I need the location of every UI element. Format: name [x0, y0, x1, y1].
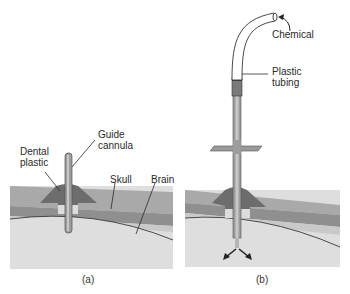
plastic-tubing	[232, 13, 275, 80]
label-skull: Skull	[110, 174, 132, 185]
leader-guide-cannula	[72, 140, 95, 167]
injection-cannula-tip	[235, 238, 239, 248]
panel-b: Chemical Plastic tubing (b)	[185, 13, 340, 285]
label-chemical: Chemical	[272, 29, 314, 40]
guide-cannula-highlight-b	[236, 95, 239, 238]
label-plastic-tubing-line2: tubing	[272, 77, 299, 88]
label-guide-cannula-line1: Guide	[98, 129, 125, 140]
panel-a: Dental plastic Guide cannula Skull Brain…	[10, 129, 174, 285]
label-plastic-tubing-line1: Plastic	[272, 66, 301, 77]
label-brain: Brain	[151, 174, 174, 185]
label-dental-plastic-line1: Dental	[20, 146, 49, 157]
cannula-through-plate	[233, 140, 241, 154]
tubing-opening	[273, 13, 277, 21]
intracranial-cannula-diagram: Dental plastic Guide cannula Skull Brain…	[0, 0, 350, 294]
caption-b: (b)	[256, 274, 268, 285]
guide-cannula-highlight	[67, 155, 69, 231]
label-dental-plastic-line2: plastic	[20, 157, 48, 168]
chemical-inflow-arrowhead	[278, 14, 284, 20]
tubing-connector-sleeve	[232, 78, 242, 96]
label-guide-cannula-line2: cannula	[98, 140, 133, 151]
caption-a: (a)	[82, 274, 94, 285]
